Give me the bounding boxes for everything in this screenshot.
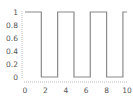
y-tick-label: 0	[13, 73, 18, 82]
square-wave-line	[25, 12, 127, 77]
y-tick-label: 0.6	[6, 34, 18, 43]
y-tick-label: 1	[13, 8, 18, 17]
x-tick-label: 10	[122, 86, 132, 95]
x-tick-label: 4	[63, 86, 68, 95]
x-tick-label: 6	[84, 86, 89, 95]
y-tick-label: 0.4	[6, 47, 18, 56]
y-tick-label: 0.2	[6, 60, 18, 69]
y-axis: 00.20.40.60.81	[6, 8, 22, 82]
x-tick-label: 0	[23, 86, 28, 95]
square-wave-chart: 00.20.40.60.81 0246810	[0, 0, 133, 100]
x-tick-label: 8	[104, 86, 109, 95]
x-tick-label: 2	[43, 86, 48, 95]
y-tick-label: 0.8	[6, 21, 18, 30]
x-axis: 0246810	[23, 82, 132, 95]
